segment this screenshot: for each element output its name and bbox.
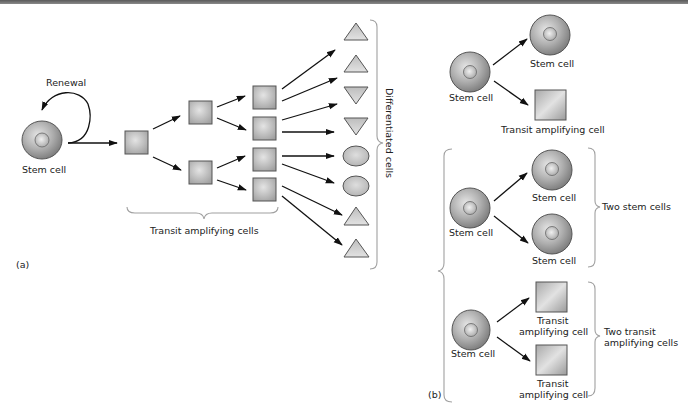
arrow-gen2b-up bbox=[217, 156, 245, 168]
stem-cell-b-asym-child bbox=[530, 15, 570, 55]
stem-cell-b-sym-parent bbox=[450, 188, 490, 228]
arrow-sym-transit-up bbox=[497, 298, 529, 322]
transit-cell-gen1 bbox=[125, 131, 148, 154]
stem-cell-b-sym-child-bottom bbox=[532, 214, 572, 254]
arrow-gen1-up bbox=[153, 116, 180, 129]
arrow-to-diff-2 bbox=[282, 78, 337, 101]
diff-cell-inverted-triangle-1 bbox=[344, 87, 368, 104]
arrow-to-diff-1 bbox=[282, 50, 335, 89]
stem-cell-a bbox=[22, 121, 62, 159]
arrow-to-diff-8 bbox=[282, 196, 342, 245]
arrow-sym-stem-up bbox=[494, 173, 527, 201]
arrow-sym-stem-down bbox=[494, 216, 528, 243]
two-transit-label-line1: Two transit bbox=[603, 326, 656, 337]
differentiated-label: Differentiated cells bbox=[384, 88, 395, 178]
transit-cell-b-sym-top bbox=[536, 282, 567, 312]
arrow-asym-to-stem bbox=[493, 39, 527, 65]
transit-cell-gen3-2 bbox=[253, 117, 276, 140]
stem-cell-label: Stem cell bbox=[22, 164, 66, 175]
stem-cell-b-sym-transit-parent bbox=[452, 310, 490, 350]
diff-cell-triangle-2 bbox=[344, 55, 368, 72]
diff-cell-inverted-triangle-2 bbox=[344, 118, 368, 135]
sym-transit-child-top-line1: Transit bbox=[536, 315, 569, 326]
sym-stem-parent-label: Stem cell bbox=[449, 227, 493, 238]
asym-parent-label: Stem cell bbox=[449, 92, 493, 103]
two-stem-brace bbox=[588, 148, 600, 267]
sym-transit-child-bottom-line2: amplifying cell bbox=[519, 389, 588, 400]
stem-cell-diagram: Renewal Stem cell Transit amplifying cel bbox=[0, 0, 688, 414]
transit-cell-gen3-1 bbox=[253, 86, 276, 109]
differentiated-brace bbox=[370, 20, 383, 269]
arrow-sym-transit-down bbox=[497, 337, 530, 361]
transit-brace bbox=[127, 207, 278, 219]
transit-cell-b-asym bbox=[535, 90, 566, 120]
transit-cell-gen2-bottom bbox=[189, 161, 212, 184]
sym-transit-parent-label: Stem cell bbox=[451, 348, 495, 359]
arrow-to-diff-6 bbox=[282, 164, 334, 183]
arrow-gen1-down bbox=[153, 157, 181, 170]
arrow-to-diff-7 bbox=[282, 186, 342, 215]
transit-cell-b-sym-bottom bbox=[536, 345, 567, 375]
arrow-gen2a-down bbox=[217, 118, 246, 130]
diff-cell-triangle-3 bbox=[344, 207, 369, 225]
sym-transit-child-bottom-line1: Transit bbox=[536, 378, 569, 389]
arrow-to-diff-3 bbox=[282, 104, 337, 120]
panel-b: Stem cell Stem cell Transit amplifying c… bbox=[428, 15, 678, 402]
arrow-gen2b-down bbox=[217, 180, 246, 190]
asym-child-bottom-label: Transit amplifying cell bbox=[500, 124, 605, 135]
transit-cell-gen2-top bbox=[189, 101, 212, 124]
panel-b-outer-brace bbox=[438, 149, 452, 402]
transit-cell-gen3-3 bbox=[253, 148, 276, 171]
diff-cell-triangle-4 bbox=[344, 239, 369, 257]
diff-cell-triangle-1 bbox=[344, 23, 368, 40]
transit-cell-gen3-4 bbox=[253, 178, 276, 201]
renewal-label: Renewal bbox=[46, 77, 86, 88]
sym-transit-child-top-line2: amplifying cell bbox=[519, 326, 588, 337]
sym-stem-child-top-label: Stem cell bbox=[532, 192, 576, 203]
transit-label: Transit amplifying cells bbox=[149, 225, 259, 236]
two-transit-brace bbox=[588, 282, 600, 396]
two-stem-cells-label: Two stem cells bbox=[601, 201, 671, 212]
stem-cell-b-asym-parent bbox=[450, 52, 490, 92]
stem-cell-b-sym-child-top bbox=[532, 150, 572, 190]
two-transit-label-line2: amplifying cells bbox=[604, 337, 678, 348]
panel-b-tag: (b) bbox=[428, 389, 441, 400]
arrow-asym-to-transit bbox=[494, 81, 528, 105]
panel-a-tag: (a) bbox=[16, 259, 29, 270]
asym-child-top-label: Stem cell bbox=[530, 58, 574, 69]
panel-a: Renewal Stem cell Transit amplifying cel bbox=[16, 20, 395, 270]
arrow-gen2a-up bbox=[217, 96, 245, 107]
diff-cell-ellipse-1 bbox=[343, 146, 369, 166]
diff-cell-ellipse-2 bbox=[343, 176, 369, 196]
sym-stem-child-bottom-label: Stem cell bbox=[532, 255, 576, 266]
